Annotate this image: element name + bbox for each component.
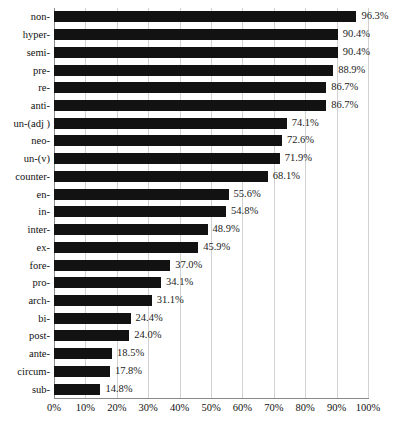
bar-value-label: 72.6% [287,132,314,148]
bar-value-label: 31.1% [157,292,184,308]
x-tick-label: 10% [76,401,95,415]
category-axis-labels: non-hyper-semi-pre-re-anti-un-(adj )neo-… [0,8,50,398]
bar-row: 18.5% [54,348,368,359]
bar-value-label: 71.9% [285,150,312,166]
category-label: fore- [0,259,50,272]
bar-row: 31.1% [54,295,368,306]
category-label: ex- [0,241,50,254]
bar-row: 90.4% [54,29,368,40]
gridline-100pct [368,8,369,398]
bar-value-label: 45.9% [203,239,230,255]
bar-row: 37.0% [54,260,368,271]
bar-value-label: 48.9% [213,221,240,237]
figure-caption-clipped [0,418,400,430]
category-label: un-(v) [0,152,50,165]
bar [54,47,338,58]
bar [54,189,229,200]
x-tick-label: 20% [107,401,126,415]
bar [54,135,282,146]
category-label: hyper- [0,28,50,41]
plot-area: 96.3%90.4%90.4%88.9%86.7%86.7%74.1%72.6%… [54,8,368,398]
bar-row: 86.7% [54,82,368,93]
category-label: inter- [0,223,50,236]
bar-row: 17.8% [54,366,368,377]
category-label: sub- [0,383,50,396]
bar [54,313,131,324]
bar-row: 24.0% [54,330,368,341]
bar [54,100,326,111]
category-label: bi- [0,312,50,325]
bar-row: 14.8% [54,384,368,395]
category-label: circum- [0,365,50,378]
x-tick-label: 70% [264,401,283,415]
bar [54,82,326,93]
category-label: re- [0,81,50,94]
bar-row: 72.6% [54,135,368,146]
bar-row: 34.1% [54,277,368,288]
category-label: ante- [0,347,50,360]
bar-value-label: 17.8% [115,363,142,379]
bar-value-label: 68.1% [273,168,300,184]
bar [54,153,280,164]
bar [54,65,333,76]
bar-value-label: 55.6% [234,186,261,202]
x-tick-label: 0% [47,401,61,415]
bar [54,384,100,395]
bar-value-label: 90.4% [343,44,370,60]
category-label: neo- [0,134,50,147]
category-label: counter- [0,170,50,183]
category-label: en- [0,188,50,201]
bar [54,260,170,271]
bar-value-label: 24.4% [136,310,163,326]
bar-value-label: 14.8% [105,381,132,397]
bar [54,366,110,377]
bar [54,29,338,40]
bar [54,295,152,306]
bar-row: 90.4% [54,47,368,58]
bar [54,348,112,359]
category-label: pre- [0,64,50,77]
bar [54,277,161,288]
bar-row: 48.9% [54,224,368,235]
x-tick-label: 30% [139,401,158,415]
bar-row: 54.8% [54,206,368,217]
bar-value-label: 88.9% [338,62,365,78]
bar-value-label: 34.1% [166,274,193,290]
category-label: arch- [0,294,50,307]
bar-value-label: 90.4% [343,26,370,42]
category-label: pro- [0,276,50,289]
bar-row: 96.3% [54,11,368,22]
bar-value-label: 54.8% [231,203,258,219]
bar-value-label: 18.5% [117,345,144,361]
x-axis-line [54,398,369,399]
category-label: anti- [0,99,50,112]
bar-row: 88.9% [54,65,368,76]
bar [54,330,129,341]
bar-value-label: 24.0% [134,327,161,343]
x-tick-label: 40% [170,401,189,415]
bar [54,242,198,253]
bar [54,171,268,182]
bar-value-label: 86.7% [331,79,358,95]
bar [54,224,208,235]
x-tick-label: 60% [233,401,252,415]
bar-row: 71.9% [54,153,368,164]
category-label: un-(adj ) [0,117,50,130]
category-label: in- [0,205,50,218]
bar-value-label: 96.3% [361,8,388,24]
x-tick-label: 90% [327,401,346,415]
bar-value-label: 74.1% [292,115,319,131]
category-label: post- [0,329,50,342]
bar-value-label: 86.7% [331,97,358,113]
horizontal-bar-chart: non-hyper-semi-pre-re-anti-un-(adj )neo-… [0,0,400,430]
category-label: semi- [0,46,50,59]
bar-row: 45.9% [54,242,368,253]
x-axis-tick-labels: 0%10%20%30%40%50%60%70%80%90%100% [0,401,400,417]
bar [54,11,356,22]
bar-row: 55.6% [54,189,368,200]
bar-row: 68.1% [54,171,368,182]
x-tick-label: 50% [201,401,220,415]
bar-row: 86.7% [54,100,368,111]
bar-value-label: 37.0% [175,257,202,273]
bar [54,118,287,129]
